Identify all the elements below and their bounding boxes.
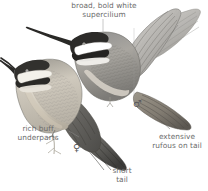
male-tail — [133, 92, 191, 130]
annotation-short-tail: short tail — [99, 167, 145, 184]
annotation-supercilium: broad, bold white supercilium — [58, 2, 150, 19]
annotation-underparts: rich buff underparts — [6, 125, 70, 142]
male-symbol: ♂ — [133, 99, 142, 109]
annotation-rufous-tail: extensive rufous on tail — [146, 133, 208, 150]
illustration-plate — [0, 0, 208, 191]
female-symbol: ♀ — [73, 143, 80, 153]
bird-illustration-svg — [0, 0, 208, 191]
male-bill — [26, 27, 72, 46]
